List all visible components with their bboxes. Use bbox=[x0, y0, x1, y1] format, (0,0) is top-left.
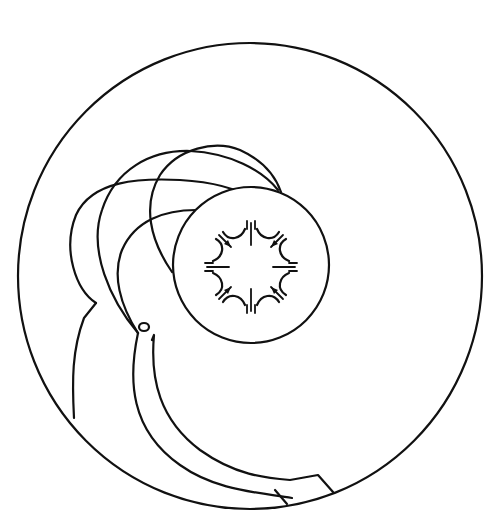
diagram-svg bbox=[0, 0, 501, 530]
trailing-band bbox=[133, 333, 333, 504]
diagram-canvas bbox=[0, 0, 501, 530]
band-inner-edge bbox=[133, 333, 292, 498]
inner-circle bbox=[173, 187, 329, 343]
band-outer-edge bbox=[152, 335, 333, 492]
band-outer-left bbox=[73, 303, 96, 418]
loop-knot bbox=[139, 323, 149, 331]
